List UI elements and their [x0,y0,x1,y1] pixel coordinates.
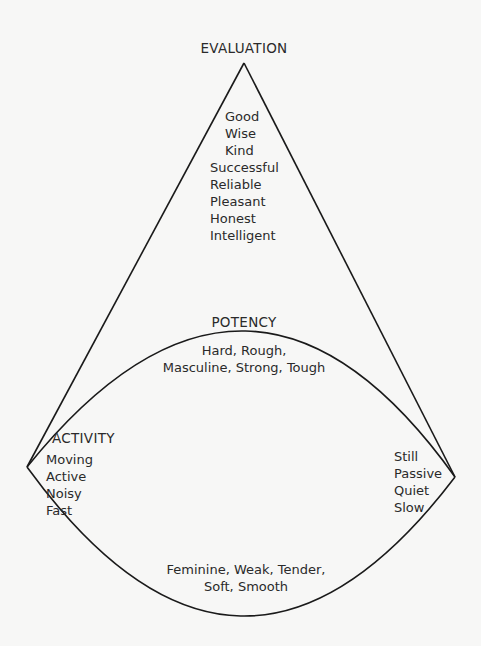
activity-passive-items: Still Passive Quiet Slow [394,448,442,516]
potency-weak-line2: Soft, Smooth [204,579,288,595]
evaluation-item: Successful [210,159,279,176]
activity-title: ACTIVITY [52,430,115,446]
active-item: Moving [46,451,93,468]
evaluation-title: EVALUATION [200,40,287,56]
evaluation-item: Honest [210,210,279,227]
potency-weak-line1: Feminine, Weak, Tender, [167,562,326,578]
evaluation-item: Good [210,108,279,125]
active-item: Active [46,468,93,485]
active-item: Noisy [46,485,93,502]
potency-strong-line2: Masculine, Strong, Tough [163,360,326,376]
evaluation-items: Good Wise Kind Successful Reliable Pleas… [210,108,279,244]
passive-item: Still [394,448,442,465]
potency-title: POTENCY [211,314,276,330]
passive-item: Quiet [394,482,442,499]
evaluation-item: Kind [210,142,279,159]
potency-strong-line1: Hard, Rough, [202,343,287,359]
evaluation-item: Intelligent [210,227,279,244]
evaluation-item: Pleasant [210,193,279,210]
passive-item: Slow [394,499,442,516]
activity-active-items: Moving Active Noisy Fast [46,451,93,519]
evaluation-item: Wise [210,125,279,142]
active-item: Fast [46,502,93,519]
passive-item: Passive [394,465,442,482]
evaluation-item: Reliable [210,176,279,193]
